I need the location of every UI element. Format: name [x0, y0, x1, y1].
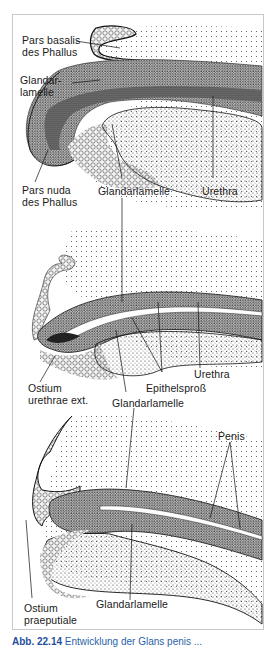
label-glandarlamelle-2: Glandarlamelle — [112, 397, 184, 409]
label-urethra-2: Urethra — [194, 368, 230, 380]
label-glandarlamelle-top: Glandar- lamelle — [20, 74, 62, 98]
label-pars-nuda-line2: des Phallus — [22, 196, 77, 208]
label-glandarlamelle-3: Glandarlamelle — [96, 598, 168, 610]
leader-ostium-praeputiale — [26, 520, 32, 598]
figure-caption: Abb. 22.14 Entwicklung der Glans penis .… — [12, 636, 202, 648]
caption-text: Entwicklung der Glans penis ... — [65, 636, 202, 647]
label-penis: Penis — [218, 430, 245, 442]
label-ostium-urethrae-line1: Ostium — [28, 382, 88, 394]
label-glandarlamelle-1: Glandarlamelle — [98, 185, 170, 197]
label-pars-basalis-line1: Pars basalis — [22, 34, 80, 46]
label-ostium-praeputiale: Ostium praeputiale — [24, 602, 77, 626]
label-ostium-urethrae: Ostium urethrae ext. — [28, 382, 88, 406]
label-pars-basalis: Pars basalis des Phallus — [22, 34, 80, 58]
label-ostium-praeputiale-line2: praeputiale — [24, 614, 77, 626]
label-ostium-urethrae-line2: urethrae ext. — [28, 394, 88, 406]
caption-number: Abb. 22.14 — [12, 636, 62, 647]
label-epithelspross: Epithelsproß — [146, 382, 206, 394]
label-glandarlamelle-top-line2: lamelle — [20, 86, 62, 98]
label-glandarlamelle-top-line1: Glandar- — [20, 74, 62, 86]
label-pars-basalis-line2: des Phallus — [22, 46, 80, 58]
label-pars-nuda: Pars nuda des Phallus — [22, 184, 77, 208]
label-pars-nuda-line1: Pars nuda — [22, 184, 77, 196]
label-urethra-1: Urethra — [202, 185, 238, 197]
stage-3-illustration — [26, 415, 262, 624]
label-ostium-praeputiale-line1: Ostium — [24, 602, 77, 614]
